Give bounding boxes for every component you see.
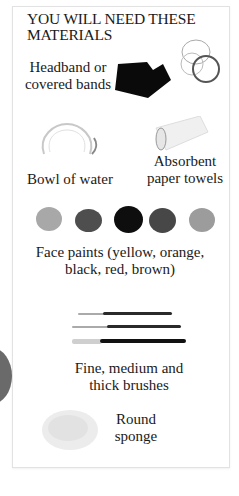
brush-medium-tip [72,326,108,328]
sponge-label: Round sponge [108,411,164,445]
paper-towel-icon [150,116,212,156]
paint-orange [75,209,102,232]
paints-label-line-2: black, red, brown) [14,261,226,278]
sponge-label-line-1: Round [108,411,164,428]
paint-black [114,206,143,233]
page-title: YOU WILL NEED THESE MATERIALS [27,11,196,43]
bowl-icon [36,118,98,160]
headband-label: Headband or covered bands [20,59,116,93]
sponge-icon [40,408,102,452]
title-line-2: MATERIALS [27,27,196,43]
brush-fine-tip [78,313,104,315]
sponge-label-line-2: sponge [108,428,164,445]
towels-label-line-1: Absorbent [143,153,227,170]
towels-label: Absorbent paper towels [143,153,227,187]
bowl-label: Bowl of water [22,171,118,188]
paints-label-line-1: Face paints (yellow, orange, [14,244,226,261]
headband-label-line-2: covered bands [20,76,116,93]
brush-medium [107,325,181,328]
paint-red [149,208,176,233]
brushes-label-line-2: thick brushes [60,377,198,394]
paints-label: Face paints (yellow, orange, black, red,… [14,244,226,278]
brushes-label-line-1: Fine, medium and [60,360,198,377]
brush-thick [100,339,186,343]
brush-fine [103,312,172,315]
towels-label-line-2: paper towels [143,170,227,187]
bowl-label-line-1: Bowl of water [22,171,118,188]
headband-icon [113,58,173,103]
brushes-label: Fine, medium and thick brushes [60,360,198,394]
paint-yellow [36,207,62,231]
cropped-decoration [0,348,12,404]
rings-icon [172,36,224,86]
headband-label-line-1: Headband or [20,59,116,76]
title-line-1: YOU WILL NEED THESE [27,11,196,27]
brush-thick-tip [72,339,102,344]
paint-brown [189,208,215,232]
